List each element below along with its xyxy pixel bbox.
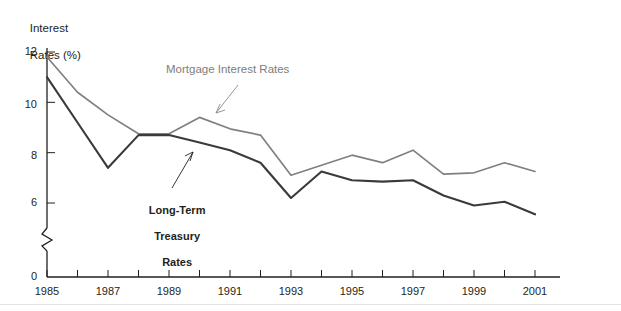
treasury-annotation-arrow-line [172,152,193,188]
series-line-mortgage-interest-rates [47,57,535,175]
y-axis-break-symbol [42,228,52,251]
annotation-long-term-treasury-rates: Long-Term Treasury Rates [125,191,217,282]
axis-lines [42,48,560,277]
treasury-annotation-line3: Rates [162,256,192,268]
x-axis-ticks [47,270,535,277]
series-line-long-term-treasury-rates [47,77,535,214]
treasury-annotation-line1: Long-Term [149,204,206,216]
plot-area [0,0,621,311]
annotation-leader-lines [172,85,238,188]
interest-rates-line-chart: Interest Rates (%) 12 10 8 6 0 1985 1987… [0,0,621,311]
mortgage-annotation-arrow-line [216,85,238,113]
annotation-mortgage-interest-rates: Mortgage Interest Rates [166,63,289,76]
y-axis-ticks [47,52,55,203]
footer-divider [0,304,621,305]
treasury-annotation-line2: Treasury [154,230,200,242]
